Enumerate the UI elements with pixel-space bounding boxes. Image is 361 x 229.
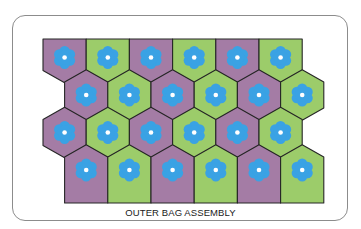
- hexagon-patch-purple: [151, 145, 194, 203]
- diagram-caption: OUTER BAG ASSEMBLY: [0, 207, 361, 218]
- hexagon-patch-purple: [237, 145, 280, 203]
- hexagon-patch-green: [281, 145, 324, 203]
- hexagon-patch-purple: [65, 145, 108, 203]
- hexagon-patch-green: [108, 145, 151, 203]
- hexagon-patch-green: [194, 145, 237, 203]
- hexagon-quilt-diagram: [0, 0, 361, 229]
